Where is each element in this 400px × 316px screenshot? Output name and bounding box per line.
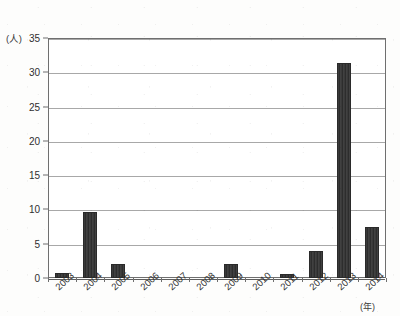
gridline-10 xyxy=(49,210,385,211)
y-axis-tick-label: 0 xyxy=(34,273,40,284)
y-axis-tick-label: 35 xyxy=(29,33,40,44)
y-axis-tick-label: 15 xyxy=(29,170,40,181)
y-axis-tick-label: 10 xyxy=(29,204,40,215)
gridline-5 xyxy=(49,245,385,246)
x-axis-unit-label: (年) xyxy=(360,300,375,313)
y-axis-tick-group: 05101520253035 xyxy=(0,38,48,278)
gridline-20 xyxy=(49,142,385,143)
y-axis-tick-label: 25 xyxy=(29,101,40,112)
gridline-35 xyxy=(49,39,385,40)
y-axis-tick-label: 5 xyxy=(34,238,40,249)
y-axis-tick-label: 30 xyxy=(29,67,40,78)
gridline-30 xyxy=(49,73,385,74)
x-axis-label-group: 2003200420052006200720082009201020112012… xyxy=(48,282,386,316)
gridline-group xyxy=(49,39,385,277)
y-axis-tick-label: 20 xyxy=(29,135,40,146)
gridline-25 xyxy=(49,108,385,109)
x-axis-tick-mark xyxy=(386,278,387,282)
gridline-15 xyxy=(49,176,385,177)
bar-chart: (人) 05101520253035 200320042005200620072… xyxy=(0,0,400,316)
plot-area xyxy=(48,38,386,278)
